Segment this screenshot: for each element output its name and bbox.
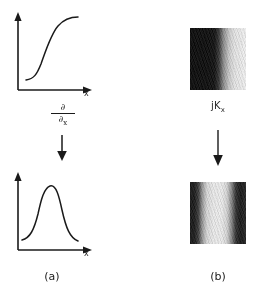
right-down-arrow (208, 130, 228, 172)
operator-numerator: ∂ (48, 103, 78, 112)
edge-image (190, 28, 246, 90)
caption-b: (b) (196, 270, 240, 283)
gaussian-curve (22, 186, 78, 241)
differentiated-image-speckle (190, 182, 246, 244)
bottom-plot-x-axis-label: x (84, 250, 89, 258)
derivative-profile-plot (8, 168, 96, 258)
frequency-operator-label: jKx (190, 100, 246, 114)
derivative-profile-svg (8, 168, 96, 258)
edge-image-speckle (190, 28, 246, 90)
operator-denominator: ∂x (48, 115, 78, 127)
top-plot-x-axis-label: x (84, 90, 89, 98)
caption-a: (a) (30, 270, 74, 283)
edge-profile-svg (8, 8, 96, 98)
figure-edge-differentiation: x ∂ ∂x x (a) jKx (0, 0, 253, 295)
y-axis-arrowhead (14, 172, 21, 181)
sigmoid-curve (26, 17, 78, 80)
partial-derivative-operator: ∂ ∂x (48, 103, 78, 128)
edge-profile-plot (8, 8, 96, 98)
y-axis-arrowhead (14, 12, 21, 21)
differentiated-image (190, 182, 246, 244)
left-down-arrow (52, 135, 72, 167)
